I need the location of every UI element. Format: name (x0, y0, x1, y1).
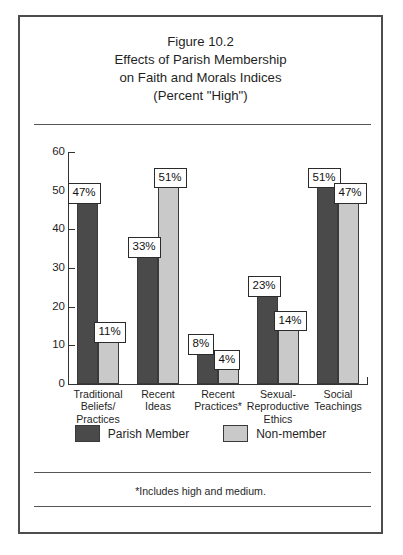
bar-value-label-parish-member-1: 47% (68, 183, 101, 204)
footnote-text: *Includes high and medium. (20, 485, 381, 497)
bars-layer: 47%11%33%51%8%4%23%14%51%47% (68, 152, 368, 384)
y-axis-label-30: 30 (35, 262, 65, 274)
title-line-2: Effects of Parish Membership (20, 51, 381, 69)
category-label-line: Social (301, 388, 375, 400)
footnote-divider-top (34, 472, 371, 473)
category-label-5: SocialTeachings (301, 388, 375, 413)
legend-label-parish-member: Parish Member (108, 428, 189, 440)
figure-frame: Figure 10.2 Effects of Parish Membership… (18, 15, 383, 534)
legend-label-non-member: Non-member (256, 428, 326, 440)
bar-value-label-parish-member-2: 33% (128, 237, 161, 258)
legend-swatch-parish-member (75, 425, 100, 442)
bar-non-member-2[interactable] (158, 187, 179, 384)
figure-title: Figure 10.2 Effects of Parish Membership… (20, 33, 381, 105)
title-line-3: on Faith and Morals Indices (20, 69, 381, 87)
bar-value-label-parish-member-4: 23% (248, 276, 281, 297)
bar-value-label-parish-member-3: 8% (188, 334, 215, 355)
bar-value-label-non-member-5: 47% (334, 183, 367, 204)
bar-group-4 (257, 152, 299, 384)
chart-legend: Parish Member Non-member (20, 425, 381, 442)
bar-value-label-non-member-1: 11% (94, 322, 126, 343)
bar-parish-member-2[interactable] (137, 256, 158, 384)
y-axis-label-50: 50 (35, 185, 65, 197)
category-label-line: Practices (61, 413, 135, 425)
bar-non-member-3[interactable] (218, 369, 239, 384)
title-divider-rule (34, 124, 371, 125)
y-axis-label-60: 60 (35, 146, 65, 158)
y-axis-label-40: 40 (35, 223, 65, 235)
bar-non-member-1[interactable] (98, 341, 119, 384)
chart-plot-area: 0102030405060 47%11%33%51%8%4%23%14%51%4… (34, 152, 371, 404)
y-axis-label-10: 10 (35, 339, 65, 351)
bar-parish-member-4[interactable] (257, 295, 278, 384)
legend-item-parish-member: Parish Member (75, 425, 189, 442)
title-line-4: (Percent "High") (20, 87, 381, 105)
footnote-divider-bottom (34, 506, 371, 507)
legend-swatch-non-member (223, 425, 248, 442)
bar-parish-member-5[interactable] (317, 187, 338, 384)
title-line-1: Figure 10.2 (20, 33, 381, 51)
legend-item-non-member: Non-member (223, 425, 326, 442)
bar-value-label-non-member-2: 51% (154, 168, 187, 189)
bar-value-label-non-member-4: 14% (274, 311, 307, 332)
y-axis-tick-0 (68, 384, 75, 385)
bar-value-label-non-member-3: 4% (214, 350, 241, 371)
bar-parish-member-1[interactable] (77, 202, 98, 384)
category-label-line: Teachings (301, 400, 375, 412)
y-axis-label-20: 20 (35, 301, 65, 313)
category-label-line: Ethics (241, 413, 315, 425)
x-axis-line (68, 384, 368, 385)
bar-non-member-5[interactable] (338, 202, 359, 384)
bar-non-member-4[interactable] (278, 330, 299, 384)
